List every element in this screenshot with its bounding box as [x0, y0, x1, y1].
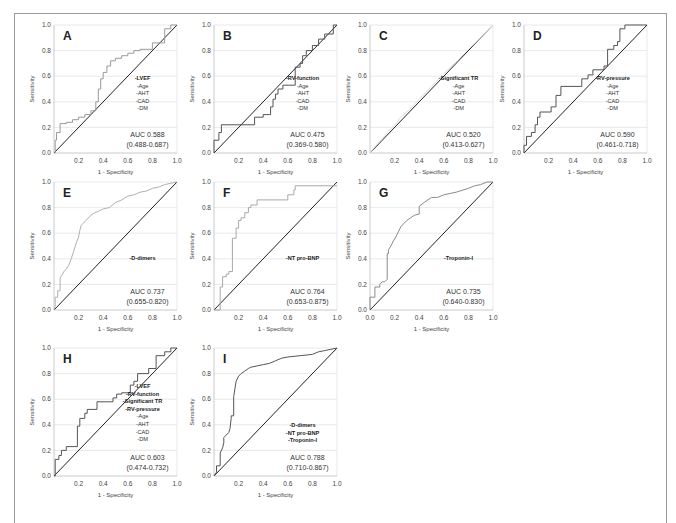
legend: -Troponin-I [444, 255, 474, 261]
x-tick-label: 1.0 [642, 157, 651, 164]
auc-value: AUC 0.788 [290, 454, 324, 461]
x-tick-label: 0.2 [390, 314, 399, 321]
y-tick-label: 0.8 [42, 370, 51, 377]
y-tick-label: 0.6 [42, 229, 51, 236]
y-tick-label: 0.2 [202, 124, 211, 131]
x-tick-label: 0.8 [464, 157, 473, 164]
auc-value: AUC 0.588 [130, 131, 164, 138]
y-tick-label: 0.8 [202, 47, 211, 54]
panel-letter: I [223, 352, 226, 366]
legend-item: -AHT [136, 421, 150, 427]
legend-item: -LVEF [135, 383, 151, 389]
x-tick-label: 0.4 [99, 157, 108, 164]
legend-item: -DM [137, 436, 148, 442]
panel-letter: D [533, 29, 542, 43]
y-tick-label: 1.0 [42, 178, 51, 185]
legend-item: -Age [607, 83, 619, 89]
y-tick-label: 0.4 [512, 98, 521, 105]
legend-item: -RV-function [286, 75, 320, 81]
roc-panel-e: 0.00.20.40.60.81.00.20.40.60.81.01 - Spe… [29, 178, 182, 332]
x-axis-label: 1 - Specificity [414, 169, 450, 175]
auc-confidence-interval: (0.710-0.867) [286, 464, 328, 472]
legend-item: -CAD [606, 98, 620, 104]
auc-value: AUC 0.735 [446, 288, 480, 295]
auc-confidence-interval: (0.653-0.875) [286, 298, 328, 306]
y-tick-label: 0.4 [202, 255, 211, 262]
x-tick-label: 0.4 [415, 314, 424, 321]
auc-confidence-interval: (0.640-0.830) [442, 298, 484, 306]
y-tick-label: 0.2 [202, 281, 211, 288]
y-axis-label: Sensitivity [29, 232, 35, 259]
x-tick-label: 0.8 [148, 314, 157, 321]
y-tick-label: 0.2 [42, 447, 51, 454]
legend-item: -NT pro-BNP [286, 255, 320, 261]
x-tick-label: 0.8 [308, 157, 317, 164]
legend-item: -Age [137, 83, 149, 89]
x-tick-label: 0.6 [439, 314, 448, 321]
y-tick-label: 0.4 [202, 421, 211, 428]
y-tick-label: 0.6 [358, 72, 367, 79]
y-tick-label: 0.0 [42, 306, 51, 313]
y-tick-label: 0.2 [42, 281, 51, 288]
x-tick-label: 0.6 [439, 157, 448, 164]
x-axis-label: 1 - Specificity [258, 492, 294, 498]
y-axis-label: Sensitivity [29, 398, 35, 425]
x-tick-label: 0.6 [283, 157, 292, 164]
y-tick-label: 0.0 [358, 149, 367, 156]
x-tick-label: 0.2 [234, 314, 243, 321]
roc-panel-c: 0.00.20.40.60.81.00.20.40.60.81.01 - Spe… [345, 21, 498, 175]
y-tick-label: 1.0 [358, 21, 367, 28]
y-tick-label: 0.4 [42, 255, 51, 262]
auc-value: AUC 0.520 [446, 131, 480, 138]
legend: -LVEF-Age-AHT-CAD-DM [135, 75, 151, 111]
y-tick-label: 0.4 [358, 255, 367, 262]
y-tick-label: 0.8 [42, 204, 51, 211]
legend-item: -CAD [136, 429, 150, 435]
y-tick-label: 0.4 [42, 98, 51, 105]
legend-item: -Significant TR [439, 75, 478, 81]
y-tick-label: 0.0 [358, 306, 367, 313]
y-tick-label: 0.6 [358, 229, 367, 236]
x-tick-label: 1.0 [332, 314, 341, 321]
legend-item: -RV-function [126, 391, 160, 397]
x-tick-label: 0.8 [148, 480, 157, 487]
legend-item: -CAD [296, 98, 310, 104]
legend: -NT pro-BNP [286, 255, 320, 261]
legend: -RV-pressure-Age-AHT-CAD-DM [595, 75, 630, 111]
y-tick-label: 0.2 [358, 124, 367, 131]
legend-item: -RV-pressure [125, 406, 160, 412]
x-tick-label: 0.8 [618, 157, 627, 164]
y-tick-label: 0.8 [358, 47, 367, 54]
roc-panel-i: 0.00.20.40.60.81.00.20.40.60.81.01 - Spe… [189, 344, 342, 498]
auc-value: AUC 0.764 [290, 288, 324, 295]
y-tick-label: 0.8 [42, 47, 51, 54]
y-tick-label: 0.4 [358, 98, 367, 105]
legend-item: -Troponin-I [444, 255, 474, 261]
y-tick-label: 0.0 [202, 306, 211, 313]
legend-item: -DM [297, 105, 308, 111]
roc-panel-d: 0.00.20.40.60.81.00.20.40.60.81.01 - Spe… [499, 21, 652, 175]
legend-item: -AHT [296, 90, 310, 96]
legend-item: -Significant TR [123, 398, 162, 404]
y-tick-label: 0.8 [202, 204, 211, 211]
legend-item: -DM [453, 105, 464, 111]
x-axis-label: 1 - Specificity [98, 169, 134, 175]
legend-item: -NT pro-BNP [286, 430, 320, 436]
x-tick-label: 0.6 [123, 314, 132, 321]
x-axis-label: 1 - Specificity [258, 326, 294, 332]
x-tick-label: 0.2 [390, 157, 399, 164]
y-tick-label: 0.8 [202, 370, 211, 377]
x-tick-label: 0.0 [365, 314, 374, 321]
y-tick-label: 1.0 [42, 344, 51, 351]
panel-letter: F [223, 186, 230, 200]
y-tick-label: 0.2 [202, 447, 211, 454]
y-tick-label: 0.4 [202, 98, 211, 105]
legend-item: -DM [137, 105, 148, 111]
legend-item: -AHT [136, 90, 150, 96]
panel-letter: E [63, 186, 71, 200]
y-tick-label: 0.0 [42, 472, 51, 479]
x-tick-label: 0.6 [123, 480, 132, 487]
legend-item: -RV-pressure [595, 75, 630, 81]
auc-confidence-interval: (0.488-0.687) [126, 141, 168, 149]
